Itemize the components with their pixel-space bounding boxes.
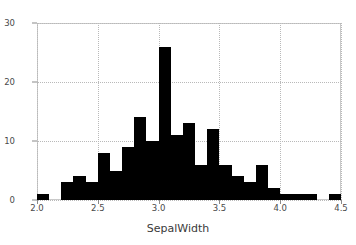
- x-tick-mark: [280, 200, 281, 204]
- histogram-chart: SepalWidth 01020302.02.53.03.54.04.5: [0, 0, 356, 245]
- x-tick-label: 4.5: [334, 203, 348, 213]
- histogram-bar: [256, 165, 268, 200]
- histogram-bar: [134, 117, 146, 200]
- x-tick-label: 3.0: [152, 203, 166, 213]
- x-tick-mark: [341, 200, 342, 204]
- histogram-bar: [280, 194, 292, 200]
- y-tick-label: 10: [0, 136, 15, 146]
- y-tick-mark: [32, 23, 37, 24]
- y-tick-label: 30: [0, 18, 15, 28]
- x-tick-label: 4.0: [273, 203, 287, 213]
- histogram-bar: [159, 47, 171, 200]
- histogram-bar: [268, 188, 280, 200]
- histogram-bar: [219, 165, 231, 200]
- histogram-bar: [146, 141, 158, 200]
- histogram-bar: [292, 194, 304, 200]
- y-tick-mark: [32, 82, 37, 83]
- histogram-bar: [86, 182, 98, 200]
- gridline-x-4.5: [341, 23, 342, 200]
- histogram-bar: [37, 194, 49, 200]
- y-tick-label: 0: [0, 195, 15, 205]
- histogram-bar: [110, 171, 122, 201]
- x-tick-label: 2.0: [30, 203, 44, 213]
- histogram-bar: [305, 194, 317, 200]
- plot-area: [37, 23, 341, 200]
- x-tick-mark: [37, 200, 38, 204]
- x-tick-label: 2.5: [91, 203, 105, 213]
- histogram-bar: [171, 135, 183, 200]
- x-axis-title: SepalWidth: [0, 222, 356, 235]
- histogram-bar: [329, 194, 341, 200]
- histogram-bar: [244, 182, 256, 200]
- gridline-y-0: [37, 200, 341, 201]
- histogram-bar: [73, 176, 85, 200]
- histogram-bar: [122, 147, 134, 200]
- x-tick-label: 3.5: [213, 203, 227, 213]
- x-tick-mark: [98, 200, 99, 204]
- y-tick-label: 20: [0, 77, 15, 87]
- histogram-bars: [37, 23, 341, 200]
- y-tick-mark: [32, 141, 37, 142]
- x-tick-mark: [159, 200, 160, 204]
- histogram-bar: [232, 176, 244, 200]
- histogram-bar: [98, 153, 110, 200]
- x-tick-mark: [219, 200, 220, 204]
- histogram-bar: [183, 123, 195, 200]
- histogram-bar: [207, 129, 219, 200]
- histogram-bar: [61, 182, 73, 200]
- histogram-bar: [195, 165, 207, 200]
